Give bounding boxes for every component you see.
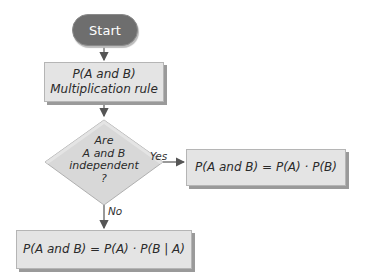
independent-formula: P(A and B) = P(A) · P(B) — [195, 160, 337, 175]
start-node: Start — [72, 14, 138, 46]
decision-line-4: ? — [60, 173, 148, 186]
independent-result-node: P(A and B) = P(A) · P(B) — [186, 149, 346, 186]
decision-line-1: Are — [60, 135, 148, 148]
multiplication-rule-node: P(A and B) Multiplication rule — [44, 62, 164, 102]
decision-node: Are A and B independent ? — [60, 135, 148, 185]
yes-label: Yes — [150, 150, 167, 162]
dependent-formula: P(A and B) = P(A) · P(B | A) — [23, 242, 185, 257]
no-label: No — [108, 205, 122, 217]
rule-subtitle: Multiplication rule — [50, 82, 158, 97]
start-label: Start — [89, 23, 121, 38]
rule-title: P(A and B) — [72, 67, 135, 82]
dependent-result-node: P(A and B) = P(A) · P(B | A) — [16, 230, 192, 269]
decision-line-3: independent — [60, 160, 148, 173]
